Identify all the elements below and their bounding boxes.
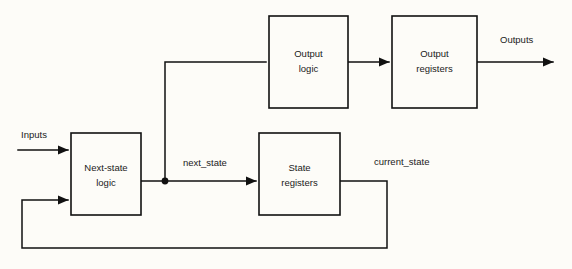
block-output-logic-label-line2: logic <box>299 63 319 74</box>
block-state-registers-label-line2: registers <box>281 177 318 188</box>
block-next-state-logic[interactable]: Next-state logic <box>71 133 141 215</box>
fsm-block-diagram: Next-state logic State registers Output … <box>0 0 572 269</box>
signal-label-current-state: current_state <box>374 156 429 167</box>
block-next-state-logic-label-line1: Next-state <box>84 162 127 173</box>
diagram-canvas: Next-state logic State registers Output … <box>0 0 572 269</box>
block-output-registers[interactable]: Output registers <box>392 16 477 108</box>
block-state-registers[interactable]: State registers <box>259 133 340 215</box>
signal-label-outputs: Outputs <box>500 34 534 45</box>
block-next-state-logic-rect <box>71 133 141 215</box>
junction-dot-next-state <box>162 178 169 185</box>
signal-label-next-state: next_state <box>183 157 227 168</box>
signal-label-inputs: Inputs <box>21 129 47 140</box>
block-state-registers-label-line1: State <box>288 162 310 173</box>
block-output-logic[interactable]: Output logic <box>269 16 348 108</box>
block-output-registers-label-line1: Output <box>420 48 449 59</box>
block-state-registers-rect <box>259 133 340 215</box>
block-output-registers-label-line2: registers <box>416 63 453 74</box>
block-output-logic-label-line1: Output <box>294 48 323 59</box>
block-next-state-logic-label-line2: logic <box>96 177 116 188</box>
